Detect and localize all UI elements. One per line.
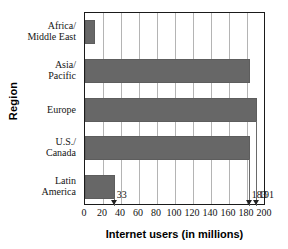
bar-series: [85, 13, 264, 204]
category-label: Asia/Pacific: [0, 59, 76, 81]
bar: [85, 136, 250, 160]
bar-chart: Region Africa/Middle EastAsia/PacificEur…: [0, 0, 288, 249]
category-label-line: U.S./: [0, 136, 76, 147]
category-label: LatinAmerica: [0, 175, 76, 197]
category-label-line: Pacific: [0, 70, 76, 81]
category-label-line: Latin: [0, 175, 76, 186]
bar: [85, 59, 250, 83]
category-label: U.S./Canada: [0, 136, 76, 158]
category-label-line: Canada: [0, 147, 76, 158]
plot-area: [84, 12, 265, 205]
category-axis-labels: Africa/Middle EastAsia/PacificEuropeU.S.…: [2, 12, 80, 205]
bar: [85, 98, 257, 122]
bar: [85, 20, 95, 44]
x-axis-title: Internet users (in millions): [84, 228, 265, 240]
category-label: Africa/Middle East: [0, 20, 76, 42]
x-tick-label: 200: [252, 207, 276, 218]
x-axis-tick-labels: 020406080100120140160180200: [84, 206, 265, 222]
category-label-line: Asia/: [0, 59, 76, 70]
category-label-line: Europe: [0, 104, 76, 115]
category-label-line: Middle East: [0, 31, 76, 42]
category-label-line: America: [0, 186, 76, 197]
bar: [85, 175, 115, 199]
category-label-line: Africa/: [0, 20, 76, 31]
category-label: Europe: [0, 104, 76, 115]
